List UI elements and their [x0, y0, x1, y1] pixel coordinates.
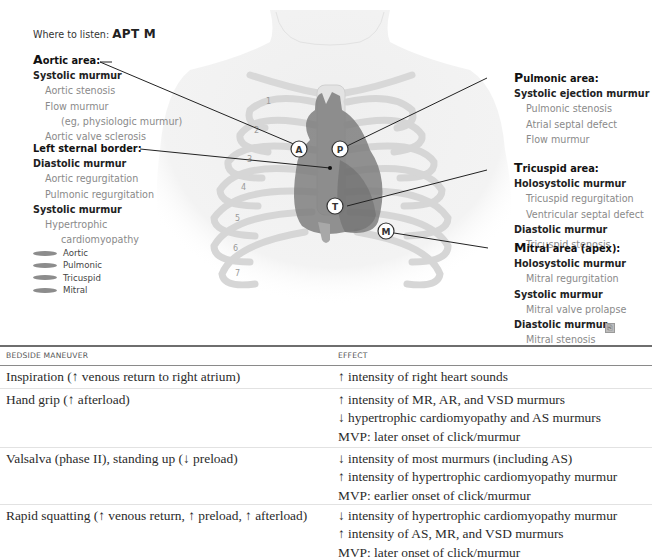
lsb-item: cardiomyopathy	[33, 232, 154, 247]
copy-icon[interactable]: ⎘	[605, 323, 615, 333]
lsb-murmur-type: Diastolic murmur	[33, 156, 154, 171]
pulmonic-murmur-type: Systolic ejection murmur	[514, 86, 649, 101]
left-sternal-border-title: Left sternal border:	[33, 141, 154, 156]
table-row: Hand grip (↑ afterload) ↑ intensity of M…	[0, 389, 652, 448]
rib-number-6: 6	[233, 244, 238, 253]
pulmonic-item: Pulmonic stenosis	[514, 101, 649, 116]
effect-cell: ↑ intensity of MR, AR, and VSD murmurs ↓…	[338, 391, 601, 446]
tricuspid-area-title: Tricuspid area:	[514, 160, 644, 176]
svg-text:A: A	[296, 145, 303, 155]
marker-tricuspid: T	[327, 198, 343, 214]
table-row: Inspiration (↑ venous return to right at…	[0, 366, 652, 389]
lsb-murmur-type: Systolic murmur	[33, 202, 154, 217]
aortic-item: (eg, physiologic murmur)	[33, 114, 182, 129]
legend-item-mitral: Mitral	[33, 284, 102, 296]
aortic-area-label: Aortic area: Systolic murmur Aortic sten…	[33, 52, 182, 144]
maneuver-cell: Rapid squatting (↑ venous return, ↑ prel…	[6, 507, 307, 525]
tricuspid-murmur-type: Diastolic murmur	[514, 222, 644, 237]
marker-aortic: A	[291, 141, 307, 157]
maneuver-cell: Hand grip (↑ afterload)	[6, 391, 130, 409]
legend-swatch	[33, 251, 57, 256]
mitral-item: Mitral regurgitation	[514, 271, 626, 286]
aortic-item: Aortic stenosis	[33, 83, 182, 98]
auscultation-figure: 1 2 3 4 5 6 7 A	[0, 0, 652, 336]
tricuspid-murmur-type: Holosystolic murmur	[514, 176, 644, 191]
legend-item-tricuspid: Tricuspid	[33, 272, 102, 284]
where-label: Where to listen:	[33, 29, 109, 40]
rib-number-5: 5	[235, 214, 240, 223]
aortic-murmur-type: Systolic murmur	[33, 68, 182, 83]
where-mnemonic: APT M	[112, 27, 156, 41]
svg-text:P: P	[337, 145, 344, 155]
where-to-listen-heading: Where to listen: APT M	[33, 27, 156, 42]
legend-swatch	[33, 288, 57, 293]
pulmonic-area-label: Pulmonic area: Systolic ejection murmur …	[514, 70, 649, 147]
left-sternal-border-label: Left sternal border: Diastolic murmur Ao…	[33, 141, 154, 247]
header-maneuver: BEDSIDE MANEUVER	[6, 351, 88, 360]
marker-mitral: M	[378, 223, 394, 239]
tricuspid-area-label: Tricuspid area: Holosystolic murmur Tric…	[514, 160, 644, 252]
svg-text:T: T	[332, 202, 339, 212]
mitral-item: Mitral valve prolapse	[514, 302, 626, 317]
pulmonic-item: Atrial septal defect	[514, 117, 649, 132]
rib-number-4: 4	[241, 183, 246, 192]
effect-cell: ↓ intensity of most murmurs (including A…	[338, 450, 617, 505]
maneuver-cell: Inspiration (↑ venous return to right at…	[6, 368, 240, 386]
valve-legend: Aortic Pulmonic Tricuspid Mitral	[33, 247, 102, 296]
lsb-item: Pulmonic regurgitation	[33, 187, 154, 202]
lsb-item: Hypertrophic	[33, 217, 154, 232]
aortic-item: Flow murmur	[33, 99, 182, 114]
effect-cell: ↑ intensity of right heart sounds	[338, 368, 508, 386]
table-row: Valsalva (phase II), standing up (↓ prel…	[0, 448, 652, 505]
pulmonic-item: Flow murmur	[514, 132, 649, 147]
maneuver-cell: Valsalva (phase II), standing up (↓ prel…	[6, 450, 238, 468]
legend-swatch	[33, 275, 57, 280]
legend-item-pulmonic: Pulmonic	[33, 259, 102, 271]
table-row: Rapid squatting (↑ venous return, ↑ prel…	[0, 505, 652, 558]
mitral-murmur-type: Holosystolic murmur	[514, 256, 626, 271]
lsb-item: Aortic regurgitation	[33, 171, 154, 186]
tricuspid-item: Ventricular septal defect	[514, 207, 644, 222]
effect-cell: ↓ intensity of hypertrophic cardiomyopat…	[338, 507, 617, 558]
mitral-murmur-type: Systolic murmur	[514, 287, 626, 302]
mitral-area-title: Mitral area (apex):	[514, 240, 626, 256]
legend-swatch	[33, 263, 57, 268]
header-effect: EFFECT	[338, 351, 367, 360]
table-top-rule	[0, 345, 652, 347]
tricuspid-item: Tricuspid regurgitation	[514, 191, 644, 206]
rib-number-1: 1	[266, 97, 271, 106]
legend-item-aortic: Aortic	[33, 247, 102, 259]
svg-text:M: M	[382, 227, 391, 237]
pulmonic-area-title: Pulmonic area:	[514, 70, 649, 86]
aortic-area-title: Aortic area:	[33, 52, 182, 68]
marker-pulmonic: P	[332, 141, 348, 157]
rib-number-7: 7	[235, 269, 240, 278]
